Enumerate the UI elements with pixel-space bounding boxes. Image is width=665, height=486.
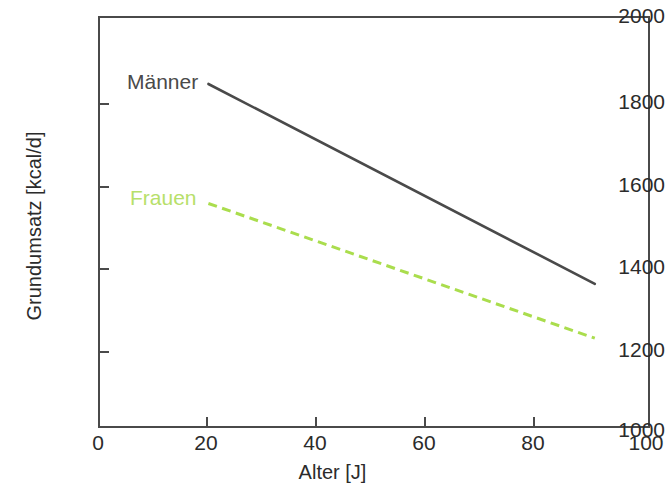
y-tick-label-1200: 1200 xyxy=(579,339,665,360)
x-tick-label-100: 100 xyxy=(606,432,665,453)
y-tick-mark xyxy=(98,186,109,188)
y-tick-mark xyxy=(98,103,109,105)
y-axis-title: Grundumsatz [kcal/d] xyxy=(24,106,44,346)
x-tick-label-20: 20 xyxy=(166,432,246,453)
y-tick-mark xyxy=(98,268,109,270)
x-tick-label-60: 60 xyxy=(384,432,464,453)
y-tick-mark xyxy=(98,351,109,353)
x-axis-title: Alter [J] xyxy=(0,462,665,482)
x-tick-label-0: 0 xyxy=(58,432,138,453)
chart-container: 2000 1800 1600 1400 1200 1000 0 20 40 60… xyxy=(0,0,665,486)
y-tick-label-1800: 1800 xyxy=(579,91,665,112)
series-label-frauen: Frauen xyxy=(130,187,197,208)
x-tick-mark xyxy=(424,417,426,428)
x-tick-mark xyxy=(206,417,208,428)
x-tick-label-40: 40 xyxy=(275,432,355,453)
series-label-maenner: Männer xyxy=(127,71,198,92)
x-tick-label-80: 80 xyxy=(493,432,573,453)
y-tick-label-1400: 1400 xyxy=(579,256,665,277)
y-tick-label-2000: 2000 xyxy=(579,5,665,26)
x-tick-mark xyxy=(315,417,317,428)
y-tick-label-1600: 1600 xyxy=(579,174,665,195)
x-tick-mark xyxy=(533,417,535,428)
